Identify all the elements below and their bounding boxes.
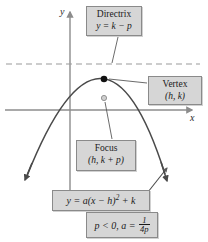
condition-callout-fraction: 14p [139, 216, 150, 234]
equation-callout-tail: + k [119, 195, 135, 206]
vertex-point [101, 76, 108, 83]
focus-callout: Focus (h, k + p) [76, 140, 136, 171]
vertex-callout-coordinates: (h, k) [153, 91, 197, 102]
equation-callout: y = a(x − h)2 + k [52, 190, 150, 211]
focus-callout-coordinates: (h, k + p) [81, 155, 131, 166]
directrix-callout-title: Directrix [91, 9, 137, 20]
condition-callout-body: p < 0, a = 14p [95, 216, 150, 234]
directrix-callout-equation: y = k − p [91, 21, 137, 32]
condition-callout-prefix: p < 0, a = [95, 219, 139, 230]
directrix-callout: Directrix y = k − p [86, 6, 142, 36]
condition-callout: p < 0, a = 14p [86, 212, 158, 238]
vertex-callout: Vertex (h, k) [148, 76, 202, 105]
x-axis-label: x [190, 112, 194, 123]
equation-callout-body: y = a(x − h)2 + k [67, 194, 136, 207]
vertex-callout-title: Vertex [153, 79, 197, 90]
equation-callout-text: y = a(x − h) [67, 195, 116, 206]
focus-callout-title: Focus [81, 143, 131, 154]
focus-point [101, 95, 106, 100]
condition-fraction-denominator: 4p [139, 225, 150, 234]
y-axis-label: y [60, 6, 64, 17]
